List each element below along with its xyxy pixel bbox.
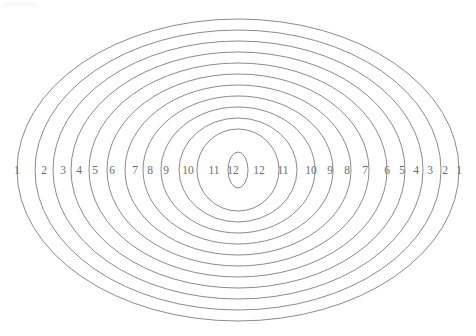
right-ring-label-7-5: 7 bbox=[362, 164, 368, 176]
right-ring-label-4-8: 4 bbox=[413, 164, 419, 176]
left-ring-label-8-7: 8 bbox=[147, 164, 153, 176]
left-ring-label-6-5: 6 bbox=[109, 164, 115, 176]
right-ring-label-11-1: 11 bbox=[277, 164, 288, 176]
figure-canvas: 123456789101112 121110987654321 bbox=[0, 0, 476, 336]
right-ring-label-6-6: 6 bbox=[384, 164, 390, 176]
left-ring-label-3-2: 3 bbox=[60, 164, 66, 176]
right-ring-label-5-7: 5 bbox=[399, 164, 405, 176]
left-ring-label-9-8: 9 bbox=[163, 164, 169, 176]
left-ring-label-10-9: 10 bbox=[182, 164, 194, 176]
left-ring-label-1-0: 1 bbox=[14, 164, 20, 176]
concentric-ellipses-figure: 123456789101112 121110987654321 bbox=[0, 0, 476, 336]
right-ring-label-2-10: 2 bbox=[442, 164, 448, 176]
right-ring-label-10-2: 10 bbox=[305, 164, 317, 176]
left-ring-label-11-10: 11 bbox=[208, 164, 219, 176]
right-ring-label-9-3: 9 bbox=[327, 164, 333, 176]
left-ring-label-5-4: 5 bbox=[92, 164, 98, 176]
left-ring-label-7-6: 7 bbox=[132, 164, 138, 176]
right-ring-label-8-4: 8 bbox=[344, 164, 350, 176]
right-ring-labels-group: 121110987654321 bbox=[253, 164, 462, 176]
right-ring-label-3-9: 3 bbox=[427, 164, 433, 176]
right-ring-label-1-11: 1 bbox=[456, 164, 462, 176]
left-ring-label-12-11: 12 bbox=[227, 164, 239, 176]
right-ring-label-12-0: 12 bbox=[253, 164, 265, 176]
left-ring-label-2-1: 2 bbox=[41, 164, 47, 176]
left-ring-label-4-3: 4 bbox=[76, 164, 82, 176]
left-ring-labels-group: 123456789101112 bbox=[14, 164, 239, 176]
